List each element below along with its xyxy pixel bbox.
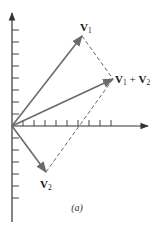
dashed-line-v1	[82, 36, 113, 79]
vector-addition-diagram: V1 V2 V1 + V2 (a)	[0, 0, 155, 231]
vector-v1	[12, 36, 82, 126]
axis-ticks	[12, 30, 111, 198]
vectors	[12, 36, 113, 172]
v2-label: V2	[40, 178, 52, 192]
vector-v2	[12, 126, 46, 172]
v1-plus-v2-label: V1 + V2	[115, 73, 150, 87]
v1-label: V1	[80, 21, 92, 35]
figure-caption: (a)	[71, 202, 83, 214]
parallelogram-dashed-lines	[46, 36, 113, 172]
axes	[12, 13, 148, 222]
vector-v1_plus_v2	[12, 79, 113, 126]
